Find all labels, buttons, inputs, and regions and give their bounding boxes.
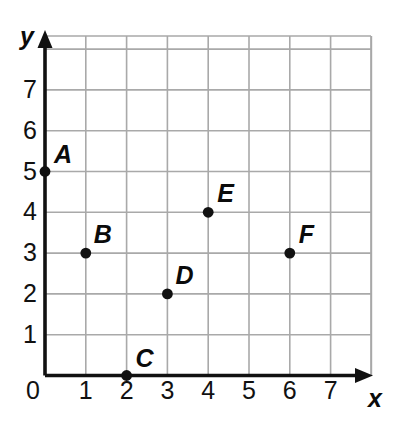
y-tick-4: 4 (19, 199, 41, 224)
grid-lines (45, 36, 371, 376)
x-tick-1: 1 (75, 378, 97, 403)
y-axis-label: y (20, 24, 34, 49)
origin-tick-label: 0 (22, 378, 44, 403)
x-tick-4: 4 (197, 378, 219, 403)
point-label-a: A (54, 142, 72, 167)
y-tick-2: 2 (19, 281, 41, 306)
y-tick-5: 5 (19, 159, 41, 184)
point-label-b: B (94, 222, 112, 247)
point-label-c: C (136, 346, 154, 371)
data-point-b (80, 248, 91, 259)
point-label-f: F (299, 222, 314, 247)
y-tick-6: 6 (19, 118, 41, 143)
y-tick-7: 7 (19, 77, 41, 102)
point-label-e: E (217, 181, 234, 206)
x-tick-7: 7 (320, 378, 342, 403)
y-tick-1: 1 (19, 322, 41, 347)
x-axis-label: x (368, 386, 382, 411)
coordinate-plane-figure: y x 0 1234567 1234567 ABCDEF (0, 0, 399, 439)
plot-canvas (0, 0, 399, 439)
data-point-d (162, 289, 173, 300)
x-tick-2: 2 (116, 378, 138, 403)
x-tick-3: 3 (156, 378, 178, 403)
data-point-f (284, 248, 295, 259)
data-point-e (203, 207, 214, 218)
point-label-d: D (175, 263, 193, 288)
x-tick-5: 5 (238, 378, 260, 403)
data-point-a (40, 166, 51, 177)
y-tick-3: 3 (19, 240, 41, 265)
x-tick-6: 6 (279, 378, 301, 403)
axes (38, 30, 374, 383)
